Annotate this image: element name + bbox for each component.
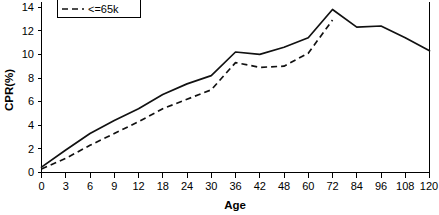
- x-tick-label: 84: [351, 180, 363, 192]
- x-axis-title: Age: [224, 199, 246, 211]
- series-line-generics: [42, 9, 430, 167]
- x-tick-label: 120: [420, 180, 438, 192]
- x-tick-label: 108: [396, 180, 414, 192]
- x-tick-label: 12: [132, 180, 144, 192]
- y-axis-ticks: [38, 7, 42, 172]
- x-tick-label: 18: [157, 180, 169, 192]
- x-tick-label: 36: [229, 180, 241, 192]
- x-tick-label: 48: [278, 180, 290, 192]
- y-tick-label: 10: [22, 48, 34, 60]
- x-tick-label: 72: [326, 180, 338, 192]
- y-axis-tick-labels: 0 2 4 6 8 10 12 14: [22, 1, 34, 178]
- y-tick-label: 14: [22, 1, 34, 13]
- x-tick-label: 96: [375, 180, 387, 192]
- x-tick-label: 0: [38, 180, 44, 192]
- y-tick-label: 8: [28, 72, 34, 84]
- x-axis-tick-labels: 0 3 6 9 12 18 24 30 36 42 48 60 72 84 96…: [38, 180, 438, 192]
- y-axis-title: CPR(%): [3, 69, 15, 111]
- y-tick-label: 2: [28, 143, 34, 155]
- x-tick-label: 3: [63, 180, 69, 192]
- y-tick-label: 6: [28, 95, 34, 107]
- x-axis-ticks: [42, 173, 430, 178]
- x-tick-label: 24: [181, 180, 193, 192]
- x-tick-label: 6: [87, 180, 93, 192]
- y-tick-label: 4: [28, 119, 34, 131]
- legend: Generics <=65k: [58, 0, 141, 18]
- series-line-under65k: [42, 20, 333, 169]
- legend-label-under65k: <=65k: [88, 3, 119, 15]
- chart-container: 0 2 4 6 8 10 12 14 CPR(%): [0, 0, 439, 215]
- x-tick-label: 30: [205, 180, 217, 192]
- line-chart: 0 2 4 6 8 10 12 14 CPR(%): [0, 0, 439, 215]
- x-tick-label: 60: [302, 180, 314, 192]
- x-tick-label: 42: [254, 180, 266, 192]
- y-tick-label: 12: [22, 25, 34, 37]
- y-tick-label: 0: [28, 166, 34, 178]
- x-tick-label: 9: [111, 180, 117, 192]
